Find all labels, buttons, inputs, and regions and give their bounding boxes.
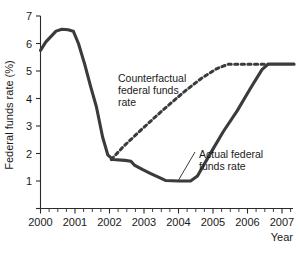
x-tick-2006: 2006: [235, 216, 259, 228]
counterfactual-annotation-line2: federal funds: [118, 84, 179, 96]
y-tick-labels: 1 2 3 4 5 6 7: [26, 10, 32, 187]
chart-figure: Federal funds rate (%) 1 2 3 4 5 6 7: [0, 0, 299, 253]
actual-annotation-leader: [178, 152, 195, 181]
x-tick-2000: 2000: [28, 216, 52, 228]
counterfactual-annotation: Counterfactual federal funds rate: [118, 72, 186, 108]
y-axis-title: Federal funds rate (%): [3, 60, 15, 169]
x-axis-title: Year: [271, 231, 294, 243]
x-tick-2003: 2003: [132, 216, 156, 228]
counterfactual-annotation-line3: rate: [118, 96, 136, 108]
x-tick-2001: 2001: [63, 216, 87, 228]
counterfactual-annotation-line1: Counterfactual: [118, 72, 186, 84]
x-tick-2005: 2005: [201, 216, 225, 228]
x-tick-marks: [41, 209, 291, 214]
y-tick-3: 3: [26, 120, 32, 132]
y-tick-5: 5: [26, 65, 32, 77]
y-tick-4: 4: [26, 93, 32, 105]
federal-funds-rate-chart: Federal funds rate (%) 1 2 3 4 5 6 7: [0, 0, 299, 253]
x-tick-labels: 2000 2001 2002 2003 2004 2005 2006 2007: [28, 216, 294, 228]
y-tick-2: 2: [26, 148, 32, 160]
x-tick-2002: 2002: [97, 216, 121, 228]
y-tick-6: 6: [26, 38, 32, 50]
actual-annotation-line1: Actual federal: [199, 148, 263, 160]
actual-annotation-line2: funds rate: [199, 160, 246, 172]
y-tick-7: 7: [26, 10, 32, 22]
x-tick-2004: 2004: [166, 216, 190, 228]
y-tick-1: 1: [26, 175, 32, 187]
x-tick-2007: 2007: [270, 216, 294, 228]
y-tick-marks: [36, 16, 41, 209]
actual-annotation: Actual federal funds rate: [178, 148, 263, 181]
